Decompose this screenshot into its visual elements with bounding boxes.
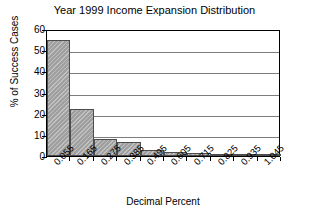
x-tick-mark xyxy=(280,157,281,161)
x-tick-mark xyxy=(116,157,117,161)
bars-series xyxy=(47,31,279,156)
bar xyxy=(47,40,70,156)
y-tick-label: 0 xyxy=(5,152,45,162)
x-tick-mark xyxy=(257,157,258,161)
chart-title: Year 1999 Income Expansion Distribution xyxy=(0,4,309,17)
x-tick-mark xyxy=(233,157,234,161)
y-tick-label: 60 xyxy=(5,25,45,35)
y-tick-label: 40 xyxy=(5,67,45,77)
x-axis-title: Decimal Percent xyxy=(46,196,280,208)
y-tick-label: 20 xyxy=(5,110,45,120)
x-tick-mark xyxy=(186,157,187,161)
x-tick-mark xyxy=(210,157,211,161)
chart-figure: Year 1999 Income Expansion Distribution … xyxy=(0,0,309,215)
y-tick-label: 50 xyxy=(5,46,45,56)
y-tick-label: 30 xyxy=(5,89,45,99)
x-tick-mark xyxy=(69,157,70,161)
x-tick-mark xyxy=(163,157,164,161)
y-tick-label: 10 xyxy=(5,131,45,141)
y-tick-mark xyxy=(42,157,47,158)
x-tick-mark xyxy=(93,157,94,161)
y-axis-title: % of Success Cases xyxy=(9,2,20,122)
plot-area xyxy=(46,30,280,157)
x-tick-mark xyxy=(140,157,141,161)
